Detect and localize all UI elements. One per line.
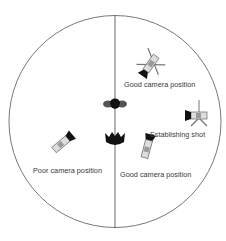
camera-tripod-icon (133, 48, 168, 83)
camera-placement-diagram (0, 0, 226, 241)
person-topdown-icon (103, 99, 127, 110)
camera-label-good-top: Good camera position (124, 81, 195, 88)
camera-label-poor: Poor camera position (33, 167, 102, 174)
camera-icon (50, 130, 75, 154)
camera-tripod-icon (185, 100, 207, 126)
camera-label-good-bottom: Good camera position (120, 171, 191, 178)
camera-label-establishing: Establishing shot (150, 131, 205, 138)
